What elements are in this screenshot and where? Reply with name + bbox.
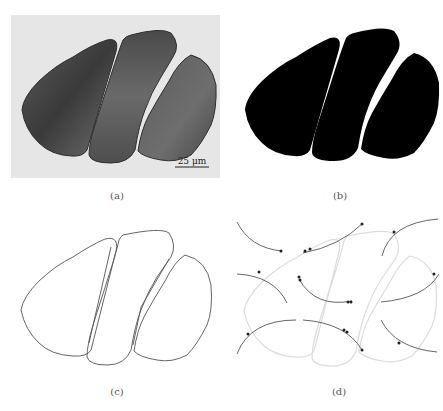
panel-d-arc-fitting	[230, 218, 443, 378]
scale-bar-label: 25 μm	[178, 156, 207, 166]
panel-a-micrograph: 25 μm	[11, 15, 220, 178]
contour-image	[11, 225, 220, 375]
binary-image	[230, 15, 443, 178]
faint-contours	[244, 231, 437, 366]
panel-d-label: (d)	[319, 386, 359, 397]
panel-c-label: (c)	[97, 386, 137, 397]
panel-a-label: (a)	[97, 190, 137, 201]
micrograph-image: 25 μm	[11, 15, 220, 178]
panel-b-binary	[230, 15, 443, 178]
panel-c-contours	[11, 225, 220, 375]
arc-fitting-image	[230, 218, 443, 378]
fitted-arcs	[237, 219, 439, 354]
panel-b-label: (b)	[320, 190, 360, 201]
